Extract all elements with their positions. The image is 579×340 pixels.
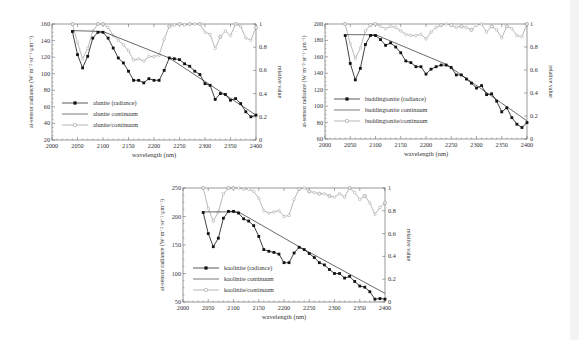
ratio-marker xyxy=(257,197,260,200)
x-tick-label: 2150 xyxy=(253,304,265,311)
radiance-marker xyxy=(399,51,402,54)
x-tick-label: 2250 xyxy=(445,141,457,148)
radiance-marker xyxy=(242,217,245,220)
radiance-marker xyxy=(500,110,503,113)
y-tick-label: 100 xyxy=(314,102,323,109)
ratio-marker xyxy=(430,31,433,34)
radiance-marker xyxy=(369,34,372,37)
x-tick-label: 2300 xyxy=(470,141,482,148)
legend-square-marker-icon xyxy=(345,97,348,100)
radiance-marker xyxy=(323,264,326,267)
y-axis-title: at-sensor radiance (W·m⁻²·sr⁻¹·μm⁻¹) xyxy=(301,36,308,128)
ratio-marker xyxy=(455,26,458,29)
radiance-marker xyxy=(521,126,524,129)
radiance-marker xyxy=(81,67,84,70)
y-tick-label: 200 xyxy=(314,20,323,27)
ratio-marker xyxy=(239,25,242,28)
ratio-marker xyxy=(219,35,222,38)
radiance-marker xyxy=(303,248,306,251)
ratio-marker xyxy=(212,220,215,223)
y-right-tick-label: 0.4 xyxy=(259,90,267,97)
radiance-marker xyxy=(485,93,488,96)
plot-frame xyxy=(52,24,256,140)
ratio-marker xyxy=(242,188,245,191)
y-right-tick-label: 0 xyxy=(530,135,533,142)
ratio-marker xyxy=(199,23,202,26)
radiance-marker xyxy=(229,99,232,102)
radiance-marker xyxy=(374,34,377,37)
ratio-marker xyxy=(369,202,372,205)
series-radiance-line xyxy=(345,36,527,128)
legend-label: kaolinite continuum xyxy=(224,275,274,282)
y-right-tick-label: 0 xyxy=(259,136,262,143)
radiance-marker xyxy=(288,261,291,264)
ratio-marker xyxy=(237,187,240,190)
ratio-marker xyxy=(188,23,191,26)
radiance-marker xyxy=(117,57,120,60)
ratio-marker xyxy=(308,190,311,193)
legend-label: buddingtonite/continuum xyxy=(365,117,428,124)
ratio-marker xyxy=(465,26,468,29)
y-tick-label: 50 xyxy=(175,298,181,305)
radiance-marker xyxy=(227,210,230,213)
ratio-marker xyxy=(298,188,301,191)
y-tick-label: 120 xyxy=(314,86,323,93)
y-tick-label: 140 xyxy=(41,37,50,44)
ratio-marker xyxy=(122,44,125,47)
x-axis-title: wavelength (nm) xyxy=(262,313,306,321)
ratio-marker xyxy=(338,192,341,195)
y-tick-label: 80 xyxy=(44,86,50,93)
legend-circle-marker-icon xyxy=(73,123,76,126)
legend-label: alunite continuum xyxy=(93,110,138,117)
y-right-tick-label: 0.4 xyxy=(530,89,538,96)
radiance-marker xyxy=(202,211,205,214)
radiance-marker xyxy=(435,65,438,68)
ratio-marker xyxy=(204,31,207,34)
radiance-marker xyxy=(158,79,161,82)
ratio-marker xyxy=(214,47,217,50)
y-tick-label: 150 xyxy=(172,241,181,248)
ratio-marker xyxy=(207,207,210,210)
ratio-marker xyxy=(521,35,524,38)
ratio-marker xyxy=(480,23,483,26)
ratio-marker xyxy=(470,28,473,31)
x-tick-label: 2100 xyxy=(369,141,381,148)
radiance-marker xyxy=(450,66,453,69)
radiance-marker xyxy=(183,62,186,65)
ratio-marker xyxy=(511,27,514,30)
radiance-marker xyxy=(127,70,130,73)
y-right-tick-label: 0.8 xyxy=(259,43,267,50)
ratio-marker xyxy=(71,23,74,26)
y-right-axis-title: relative value xyxy=(277,66,283,99)
radiance-marker xyxy=(283,261,286,264)
ratio-marker xyxy=(229,34,232,37)
radiance-marker xyxy=(510,116,513,119)
y-right-axis-title: relative value xyxy=(548,65,554,98)
legend-label: buddingtonite continuum xyxy=(365,106,428,113)
x-tick-label: 2100 xyxy=(97,142,109,149)
y-right-tick-label: 0 xyxy=(388,298,391,305)
y-tick-label: 60 xyxy=(317,135,323,142)
radiance-marker xyxy=(222,217,225,220)
x-tick-label: 2000 xyxy=(177,304,189,311)
ratio-marker xyxy=(107,26,110,29)
ratio-marker xyxy=(168,25,171,28)
radiance-marker xyxy=(344,34,347,37)
ratio-marker xyxy=(410,34,413,37)
radiance-marker xyxy=(257,235,260,238)
ratio-marker xyxy=(227,187,230,190)
y-tick-label: 160 xyxy=(314,53,323,60)
radiance-marker xyxy=(348,275,351,278)
ratio-marker xyxy=(194,23,197,26)
legend-square-marker-icon xyxy=(204,266,207,269)
legend-label: buddingtonite (radiance) xyxy=(365,95,426,103)
x-tick-label: 2150 xyxy=(395,141,407,148)
radiance-marker xyxy=(207,232,210,235)
radiance-marker xyxy=(364,43,367,46)
chart-buddingtonite: 2000205021002150220022502300235024006080… xyxy=(301,20,554,158)
ratio-marker xyxy=(97,23,100,26)
radiance-marker xyxy=(234,97,237,100)
radiance-marker xyxy=(363,286,366,289)
ratio-marker xyxy=(399,30,402,33)
y-tick-label: 60 xyxy=(44,103,50,110)
